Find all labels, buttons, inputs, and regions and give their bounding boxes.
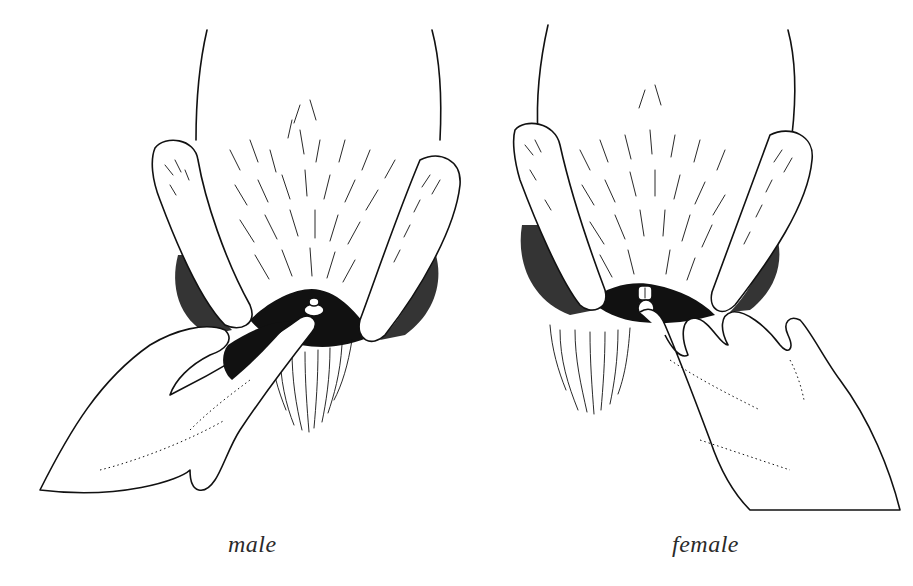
illustration-male-panel — [0, 0, 470, 520]
caption-female: female — [672, 531, 739, 558]
illustration-female-panel — [470, 0, 913, 520]
caption-male: male — [228, 531, 277, 558]
male-rabbit-drawing — [0, 0, 470, 520]
female-rabbit-drawing — [470, 0, 913, 520]
